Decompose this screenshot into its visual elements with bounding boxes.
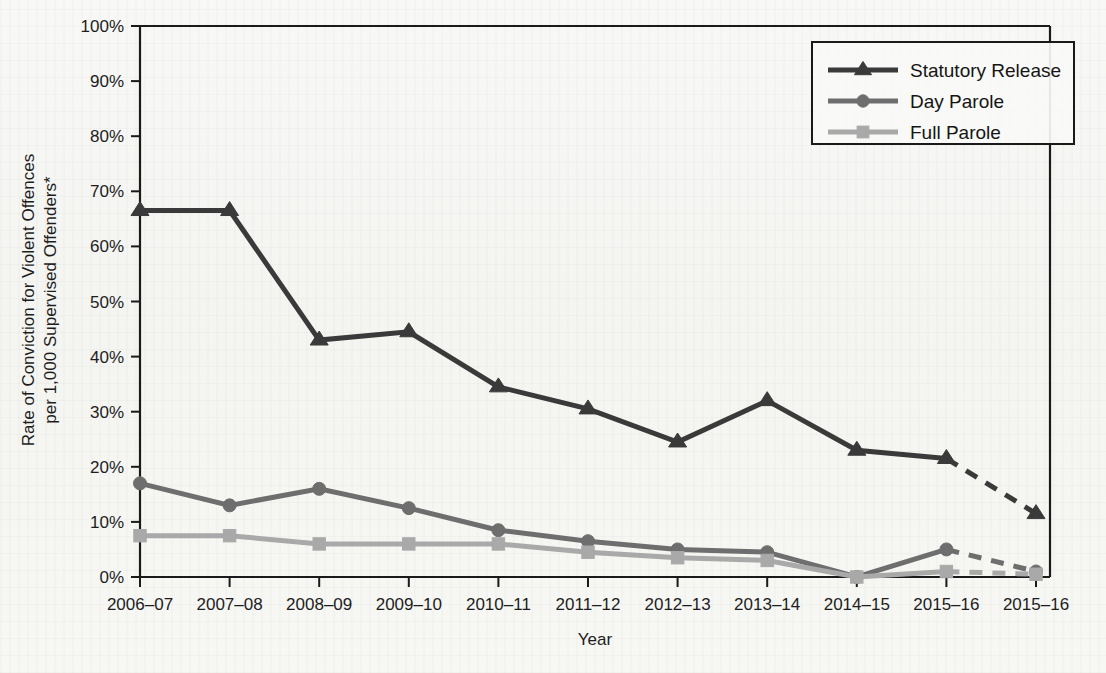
- data-point-marker: [313, 482, 326, 495]
- data-point-marker: [134, 477, 147, 490]
- data-point-marker: [671, 552, 683, 564]
- y-tick-label: 40%: [90, 348, 124, 367]
- y-axis-tick-labels: 0%10%20%30%40%50%60%70%80%90%100%: [81, 17, 124, 587]
- y-axis-title-line2: per 1,000 Supervised Offenders*: [41, 176, 60, 424]
- x-tick-label: 2007–08: [197, 595, 263, 614]
- data-point-marker: [403, 538, 415, 550]
- x-tick-label: 2014–15: [824, 595, 890, 614]
- x-tick-label: 2009–10: [376, 595, 442, 614]
- data-series-group: [131, 202, 1045, 584]
- series-line-dashed: [946, 549, 1036, 571]
- x-tick-label: 2008–09: [286, 595, 352, 614]
- y-tick-label: 30%: [90, 403, 124, 422]
- y-tick-label: 100%: [81, 17, 124, 36]
- series-day-parole: [134, 477, 1043, 584]
- y-tick-label: 20%: [90, 458, 124, 477]
- y-tick-label: 50%: [90, 293, 124, 312]
- data-point-marker: [761, 554, 773, 566]
- chart-legend: Statutory ReleaseDay ParoleFull Parole: [812, 42, 1074, 144]
- data-point-marker: [758, 392, 776, 406]
- x-tick-label: 2015–16: [1003, 595, 1069, 614]
- x-tick-label: 2010–11: [466, 595, 531, 614]
- data-point-marker: [223, 529, 235, 541]
- data-point-marker: [851, 571, 863, 583]
- y-axis-tick-marks: [131, 26, 140, 577]
- y-axis-title-line1: Rate of Conviction for Violent Offences: [19, 154, 38, 446]
- y-tick-label: 70%: [90, 182, 124, 201]
- data-point-marker: [400, 323, 418, 337]
- data-point-marker: [223, 499, 236, 512]
- x-tick-label: 2015–16: [913, 595, 979, 614]
- y-tick-label: 60%: [90, 237, 124, 256]
- legend-label: Day Parole: [910, 91, 1004, 112]
- y-axis-title: Rate of Conviction for Violent Offences …: [19, 154, 60, 446]
- chart-page: 0%10%20%30%40%50%60%70%80%90%100% 2006–0…: [0, 0, 1106, 673]
- y-tick-label: 10%: [90, 513, 124, 532]
- data-point-marker: [492, 524, 505, 537]
- y-tick-label: 0%: [99, 568, 124, 587]
- x-tick-label: 2011–12: [556, 595, 621, 614]
- data-point-marker: [940, 543, 953, 556]
- x-axis-tick-marks: [140, 577, 1036, 587]
- data-point-marker: [313, 538, 325, 550]
- y-tick-label: 80%: [90, 127, 124, 146]
- x-tick-label: 2012–13: [645, 595, 711, 614]
- legend-label: Statutory Release: [910, 60, 1061, 81]
- data-point-marker: [134, 529, 146, 541]
- series-statutory-release: [131, 202, 1045, 519]
- data-point-marker: [582, 546, 594, 558]
- series-line-dashed: [946, 571, 1036, 574]
- x-axis-tick-labels: 2006–072007–082008–092009–102010–112011–…: [107, 595, 1069, 614]
- data-point-marker: [402, 502, 415, 515]
- series-line-solid: [140, 211, 946, 459]
- x-axis-title: Year: [578, 630, 613, 649]
- series-line-solid: [140, 483, 946, 577]
- series-line-solid: [140, 536, 946, 577]
- data-point-marker: [492, 538, 504, 550]
- data-point-marker: [1030, 568, 1042, 580]
- data-point-marker: [940, 565, 952, 577]
- x-tick-label: 2006–07: [107, 595, 173, 614]
- x-tick-label: 2013–14: [734, 595, 800, 614]
- data-point-marker: [857, 95, 869, 107]
- y-tick-label: 90%: [90, 72, 124, 91]
- series-line-dashed: [946, 459, 1036, 514]
- line-chart: 0%10%20%30%40%50%60%70%80%90%100% 2006–0…: [0, 0, 1106, 673]
- legend-label: Full Parole: [910, 122, 1001, 143]
- data-point-marker: [857, 126, 869, 138]
